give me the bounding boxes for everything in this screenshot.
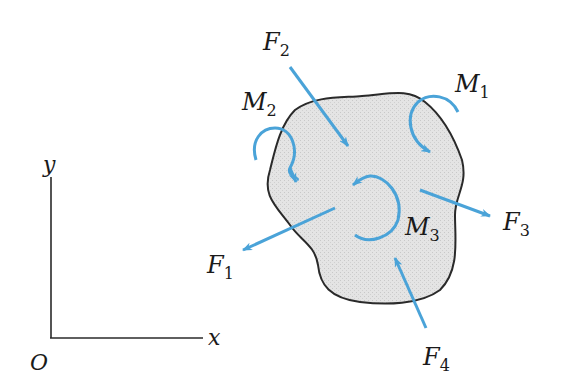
force-label-f3: F3	[502, 208, 530, 240]
x-axis-label: x	[208, 325, 221, 350]
y-axis-label: y	[42, 152, 56, 177]
moment-label-m2: M2	[241, 88, 277, 120]
moment-label-m1: M1	[454, 70, 490, 102]
origin-label: O	[30, 350, 48, 375]
rigid-body	[268, 93, 464, 304]
coordinate-axes	[50, 177, 203, 338]
force-label-f1: F1	[206, 251, 234, 283]
force-label-f2: F2	[262, 28, 290, 60]
free-body-diagram: y x O F2 F1 F3 F4 M1 M2 M3	[0, 0, 566, 388]
force-label-f4: F4	[422, 343, 450, 375]
